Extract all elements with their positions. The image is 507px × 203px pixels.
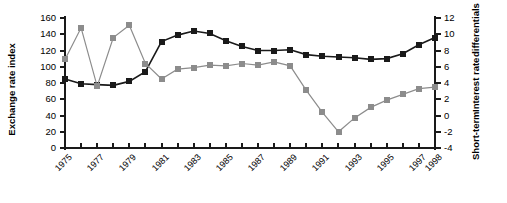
right-tick-mark <box>436 66 441 68</box>
right-tick-mark <box>436 17 441 19</box>
data-point-marker <box>432 35 438 41</box>
data-point-marker <box>126 22 132 28</box>
data-point-marker <box>207 62 213 68</box>
data-point-marker <box>191 28 197 34</box>
x-tick-mark <box>128 143 130 148</box>
right-tick-mark <box>436 131 441 133</box>
data-point-marker <box>287 47 293 53</box>
left-tick-mark <box>60 17 65 19</box>
data-point-marker <box>400 91 406 97</box>
data-point-marker <box>126 78 132 84</box>
data-point-marker <box>319 53 325 59</box>
x-tick-mark <box>193 143 195 148</box>
x-tick-mark <box>209 143 211 148</box>
x-tick-mark <box>112 143 114 148</box>
right-tick-label: 2 <box>444 94 470 103</box>
data-point-marker <box>142 69 148 75</box>
right-tick-label: 4 <box>444 78 470 87</box>
left-tick-mark <box>60 82 65 84</box>
left-tick-label: 80 <box>30 78 56 87</box>
x-tick-mark <box>337 143 339 148</box>
data-point-marker <box>239 61 245 67</box>
x-tick-mark <box>321 143 323 148</box>
left-tick-label: 140 <box>30 29 56 38</box>
data-point-marker <box>110 82 116 88</box>
data-point-marker <box>142 61 148 67</box>
right-tick-label: 0 <box>444 111 470 120</box>
data-point-marker <box>271 59 277 65</box>
data-point-marker <box>352 55 358 61</box>
right-tick-mark <box>436 98 441 100</box>
left-tick-mark <box>60 66 65 68</box>
data-point-marker <box>110 35 116 41</box>
left-tick-mark <box>60 131 65 133</box>
data-point-marker <box>207 30 213 36</box>
x-tick-mark <box>257 143 259 148</box>
data-point-marker <box>223 63 229 69</box>
right-tick-label: 10 <box>444 29 470 38</box>
x-tick-mark <box>402 143 404 148</box>
left-tick-label: 0 <box>30 143 56 152</box>
x-tick-mark <box>418 143 420 148</box>
x-tick-mark <box>305 143 307 148</box>
data-point-marker <box>78 81 84 87</box>
data-point-marker <box>94 83 100 89</box>
chart-figure: Exchange rate index Short-term Interest … <box>0 0 507 203</box>
data-point-marker <box>175 66 181 72</box>
data-point-marker <box>62 76 68 82</box>
data-point-marker <box>303 52 309 58</box>
x-tick-mark <box>177 143 179 148</box>
data-point-marker <box>336 129 342 135</box>
right-tick-mark <box>436 50 441 52</box>
series-line <box>65 31 435 85</box>
right-tick-label: -2 <box>444 127 470 136</box>
data-point-marker <box>336 54 342 60</box>
x-tick-mark <box>161 143 163 148</box>
data-point-marker <box>271 48 277 54</box>
data-point-marker <box>175 32 181 38</box>
x-tick-mark <box>225 143 227 148</box>
data-point-marker <box>352 115 358 121</box>
x-tick-mark <box>96 143 98 148</box>
x-tick-mark <box>241 143 243 148</box>
right-tick-label: 12 <box>444 13 470 22</box>
data-point-marker <box>191 65 197 71</box>
right-tick-label: 8 <box>444 46 470 55</box>
data-point-marker <box>62 56 68 62</box>
data-point-marker <box>223 38 229 44</box>
right-tick-mark <box>436 115 441 117</box>
x-tick-mark <box>273 143 275 148</box>
data-point-marker <box>384 97 390 103</box>
data-point-marker <box>319 109 325 115</box>
data-point-marker <box>159 76 165 82</box>
series-line <box>65 25 435 132</box>
left-tick-label: 60 <box>30 94 56 103</box>
x-tick-mark <box>64 143 66 148</box>
data-point-marker <box>287 63 293 69</box>
x-tick-mark <box>289 143 291 148</box>
data-point-marker <box>416 86 422 92</box>
left-tick-mark <box>60 50 65 52</box>
data-point-marker <box>400 51 406 57</box>
x-tick-mark <box>370 143 372 148</box>
data-point-marker <box>239 43 245 49</box>
left-tick-label: 100 <box>30 62 56 71</box>
data-point-marker <box>255 62 261 68</box>
series-exchange-rate <box>62 28 438 88</box>
left-tick-label: 40 <box>30 111 56 120</box>
right-tick-mark <box>436 82 441 84</box>
x-tick-mark <box>354 143 356 148</box>
x-tick-mark <box>80 143 82 148</box>
data-point-marker <box>432 84 438 90</box>
data-point-marker <box>416 42 422 48</box>
left-tick-label: 120 <box>30 46 56 55</box>
data-point-marker <box>368 104 374 110</box>
right-tick-label: -4 <box>444 143 470 152</box>
data-point-marker <box>159 39 165 45</box>
x-tick-mark <box>386 143 388 148</box>
x-tick-mark <box>144 143 146 148</box>
left-tick-mark <box>60 33 65 35</box>
data-point-marker <box>368 56 374 62</box>
x-tick-mark <box>434 143 436 148</box>
series-interest-differentials <box>62 22 438 135</box>
